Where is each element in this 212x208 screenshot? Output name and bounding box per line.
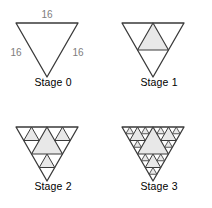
shaded-triangle-depth-1: [55, 127, 71, 141]
stage-0-caption: Stage 0: [0, 76, 106, 88]
stage-cell-2: Stage 2: [0, 104, 106, 208]
sierpinski-figure: 16 16 16 Stage 0 Stage 1 Stage 2 Stage 3: [0, 0, 212, 208]
shaded-triangle-depth-2: [165, 141, 173, 148]
stage-1-diagram: [106, 0, 212, 86]
stage-3-diagram: [106, 104, 212, 190]
stage-3-caption: Stage 3: [106, 180, 212, 192]
shaded-triangle-depth-2: [141, 127, 149, 134]
shaded-triangle-depth-2: [141, 154, 149, 161]
shaded-triangle-depth-2: [149, 168, 157, 175]
stage-0-diagram: 16 16 16: [0, 0, 106, 86]
shaded-triangle-depth-2: [172, 127, 180, 134]
outer-triangle: [16, 23, 78, 77]
stage-0-triangles: [16, 23, 78, 77]
shaded-triangle-depth-2: [157, 154, 165, 161]
shaded-triangle-depth-2: [134, 141, 142, 148]
edge-label-top: 16: [41, 9, 53, 20]
stage-2-triangles: [16, 127, 78, 181]
shaded-triangle-depth-1: [24, 127, 40, 141]
shaded-triangle-depth-2: [157, 127, 165, 134]
stage-cell-3: Stage 3: [106, 104, 212, 208]
stage-1-caption: Stage 1: [106, 76, 212, 88]
stage-1-triangles: [122, 23, 184, 77]
shaded-triangle-depth-2: [126, 127, 134, 134]
stage-2-diagram: [0, 104, 106, 190]
stage-2-caption: Stage 2: [0, 180, 106, 192]
edge-label-left: 16: [10, 47, 22, 58]
stage-3-triangles: [122, 127, 184, 181]
edge-label-right: 16: [72, 47, 84, 58]
shaded-triangle-depth-0: [138, 23, 169, 50]
stage-cell-1: Stage 1: [106, 0, 212, 104]
shaded-triangle-depth-1: [39, 154, 55, 168]
stage-cell-0: 16 16 16 Stage 0: [0, 0, 106, 104]
